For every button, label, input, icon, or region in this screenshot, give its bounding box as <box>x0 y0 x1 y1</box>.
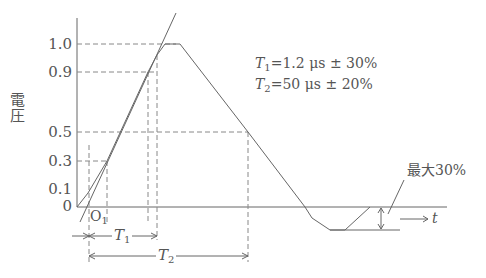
time-axis-label: t <box>432 211 438 225</box>
t2-label: T2 <box>156 248 176 265</box>
origin-label: O1 <box>90 209 108 226</box>
y-tick-0: 0 <box>32 199 72 214</box>
y-axis-label: 電圧 <box>8 92 23 124</box>
y-tick-0.5: 0.5 <box>32 125 72 140</box>
y-tick-0.3: 0.3 <box>32 154 72 169</box>
undershoot-label: 最大30% <box>407 163 466 177</box>
y-tick-1.0: 1.0 <box>32 37 72 52</box>
guide-lines <box>77 44 248 262</box>
t1-formula: T1=1.2 μs ± 30% <box>255 56 377 73</box>
waveform-diagram <box>0 0 486 278</box>
t2-formula: T2=50 μs ± 20% <box>255 77 373 94</box>
t1-label: T1 <box>112 228 132 245</box>
y-tick-0.1: 0.1 <box>32 182 72 197</box>
undershoot-leader <box>388 180 404 214</box>
y-tick-0.9: 0.9 <box>32 65 72 80</box>
